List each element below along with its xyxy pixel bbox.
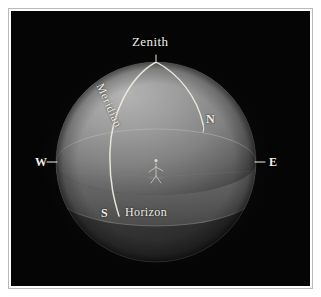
diagram-plate: Zenith Meridian Horizon N S W E bbox=[11, 11, 310, 286]
label-west: W bbox=[35, 156, 47, 168]
observer-figure bbox=[11, 11, 310, 286]
label-south: S bbox=[101, 207, 108, 219]
label-east: E bbox=[269, 156, 277, 168]
celestial-sphere: Zenith Meridian Horizon N S W E bbox=[11, 11, 310, 286]
figure-root: Zenith Meridian Horizon N S W E bbox=[0, 0, 321, 297]
label-zenith: Zenith bbox=[132, 35, 168, 48]
label-north: N bbox=[206, 113, 215, 125]
label-horizon: Horizon bbox=[125, 206, 167, 218]
